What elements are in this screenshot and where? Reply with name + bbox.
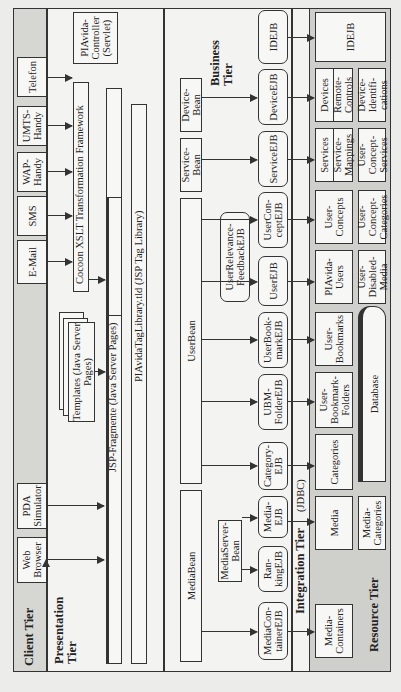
device-ejb: DeviceEJB <box>258 69 288 125</box>
arrow-telefon-down <box>46 77 72 78</box>
resource-categories: Categories <box>315 434 353 490</box>
ranking-ejb: Ran-kingEJB <box>258 546 288 592</box>
service-bean: Service-Bean <box>180 138 202 192</box>
presentation-business-divider <box>163 8 165 672</box>
mediaserver-bean: MediaServer-Bean <box>218 520 242 582</box>
arrow-web-down <box>46 559 104 560</box>
arrow-ejb-res-4 <box>288 401 314 402</box>
arrow-userbean-userconcept <box>202 219 257 220</box>
client-pda-simulator: PDA Simulator <box>17 483 47 529</box>
ubm-folder-ejb: UBM-FolderEJB <box>258 374 288 430</box>
taglib-label: PIAvidaTagLibrary.tld (JSP Tag Library) <box>133 211 145 382</box>
resource-user-bookmarks: User-Bookmarks <box>315 312 353 366</box>
userconcept-ejb: UserCon-ceptEJB <box>258 192 288 248</box>
integration-tier-label: Integration Tier <box>294 528 307 614</box>
arrow-ejb-res-3 <box>288 465 314 466</box>
taglib-bar <box>131 104 147 664</box>
arrow-ejb-res-10 <box>288 37 314 38</box>
client-sms: SMS <box>17 196 47 236</box>
arrow-pda-down <box>46 505 104 506</box>
resource-tier-label: Resource Tier <box>368 577 381 652</box>
arrow-mediaserver-media <box>242 517 257 518</box>
mediacontainer-ejb: MediaCon-tainerEJB <box>258 602 288 660</box>
arrow-sms-down <box>46 215 72 216</box>
arrow-templates-jsp <box>95 371 105 372</box>
resource-database: Database <box>358 306 386 482</box>
arrow-umts-down <box>46 125 72 126</box>
arrow-ejb-res-9 <box>288 97 314 98</box>
userbean: UserBean <box>180 198 202 484</box>
resource-media-categories: Media-Categories <box>358 496 386 550</box>
resource-user-concept-categories: User-Concept-Categories <box>358 190 386 244</box>
category-ejb: Category-EJB <box>258 442 288 490</box>
jsp-fragment-bar-2 <box>106 196 122 316</box>
templates-box: Templates (Java Server Pages) <box>68 322 95 422</box>
resource-device-identifications: Device-Identifi-cations <box>358 68 386 122</box>
mediabean: MediaBean <box>180 490 202 662</box>
presentation-tier-label: Presentation Tier <box>53 584 79 664</box>
jsp-fragment-label: JSP-Fragmente (Java Server Pages) <box>107 322 119 472</box>
user-ejb: UserEJB <box>258 256 288 306</box>
userrelevance-feedback-ejb: UserRelevance-FeedbackEJB <box>220 212 250 302</box>
architecture-diagram: Client Tier Web Browser PDA Simulator E-… <box>13 8 391 672</box>
id-ejb: IDEJB <box>258 10 288 64</box>
arrow-email-down <box>46 261 72 262</box>
arrow-ejb-res-1 <box>288 631 314 632</box>
arrow-mediaserver-ranking <box>242 569 257 570</box>
arrow-ejb-res-6 <box>288 281 314 282</box>
business-tier-label: Business Tier <box>209 26 235 86</box>
arrow-ejb-res-7 <box>288 219 314 220</box>
resource-user-concept-services: User-Concept-Services <box>358 128 386 182</box>
media-ejb: Media-EJB <box>258 496 288 538</box>
client-wap-handy: WAP-Handy <box>17 152 47 192</box>
resource-media: Media <box>315 496 353 550</box>
arrow-userbean-ubm <box>202 401 257 402</box>
userbookmark-ejb: UserBook-markEJB <box>258 312 288 368</box>
resource-user-bookmark-folders: User-Bookmark-Folders <box>315 372 353 428</box>
arrow-cocoon-jsp <box>89 279 105 280</box>
arrow-ejb-res-8 <box>288 159 314 160</box>
resource-media-containers: Media-Containers <box>315 604 353 658</box>
arrow-mediabean-category <box>202 465 257 466</box>
integration-tier-jdbc: (JDBC) <box>295 479 307 512</box>
resource-idejb: IDEJB <box>315 12 386 62</box>
arrow-mediabean-mediacontainer <box>202 631 257 632</box>
arrow-ejb-res-2 <box>288 521 314 522</box>
piavida-controller-servlet: PIAvida-Controller (Servlet) <box>73 12 118 64</box>
client-tier-label: Client Tier <box>23 608 36 666</box>
arrow-servicebean-serviceejb <box>202 159 257 160</box>
client-umts-handy: UMTS-Handy <box>17 106 47 146</box>
arrow-ejb-res-5 <box>288 339 314 340</box>
device-bean: Device-Bean <box>180 78 202 132</box>
resource-user-disabled-media: User-Disabled-Media <box>358 250 386 304</box>
resource-service-mappings: Service-Mappings <box>333 128 353 182</box>
cocoon-framework-label: Cocoon XSLT Transformation Framework <box>74 105 86 284</box>
resource-remote-controls: Remote-Controls <box>333 68 353 122</box>
client-telefon: Telefon <box>17 57 47 97</box>
resource-user-concepts: User-Concepts <box>315 190 353 244</box>
arrow-devicebean-deviceejb <box>202 97 257 98</box>
client-email: E-Mail <box>17 240 47 284</box>
service-ejb: ServiceEJB <box>258 131 288 187</box>
arrow-userbean-userbookmark <box>202 339 257 340</box>
arrow-wap-down <box>46 171 72 172</box>
jsp-fragment-bar-3 <box>106 88 122 198</box>
arrow-userbean-user <box>202 281 257 282</box>
resource-piavida-users: PIAvida-Users <box>315 250 353 304</box>
